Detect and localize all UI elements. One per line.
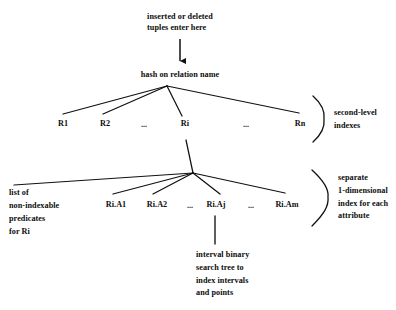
attribute-node-ri-aj: Ri.Aj <box>206 200 225 210</box>
relation-node-r1: R1 <box>58 119 68 129</box>
attribute-row-ellipsis-right: ... <box>248 201 254 210</box>
hash-fanout-edges <box>63 86 299 116</box>
relation-node-rn: Rn <box>295 119 306 129</box>
non-indexable-predicates-annotation: list of non-indexable predicates for Ri <box>9 186 59 238</box>
second-level-brace <box>313 96 324 142</box>
ri-stem-edge <box>186 140 193 173</box>
attribute-node-ri-am: Ri.Am <box>275 200 298 210</box>
attribute-row-ellipsis-left: ... <box>187 201 193 210</box>
separate-index-brace <box>312 170 328 226</box>
attribute-node-ri-a2: Ri.A2 <box>147 200 168 210</box>
diagram-canvas: inserted or deleted tuples enter here ha… <box>0 0 396 310</box>
relation-row-ellipsis-left: ... <box>141 120 147 129</box>
attribute-node-ri-a1: Ri.A1 <box>106 200 127 210</box>
hash-node-label: hash on relation name <box>141 70 219 80</box>
separate-index-annotation: separate 1-dimensional index for each at… <box>338 172 388 223</box>
relation-row-ellipsis-right: ... <box>243 120 249 129</box>
relation-node-ri: Ri <box>181 119 189 129</box>
second-level-indexes-annotation: second-level indexes <box>334 107 377 132</box>
relation-node-r2: R2 <box>100 119 110 129</box>
interval-binary-search-tree-annotation: interval binary search tree to index int… <box>196 249 249 300</box>
entry-note: inserted or deleted tuples enter here <box>147 11 213 33</box>
